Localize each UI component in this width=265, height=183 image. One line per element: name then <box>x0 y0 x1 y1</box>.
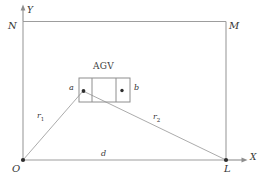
segment-r1 <box>23 91 83 160</box>
agv-point-a-marker <box>82 89 86 93</box>
vertex-label-m: M <box>229 21 239 31</box>
segment-r1-subscript: 1 <box>41 116 45 122</box>
y-axis-label: Y <box>27 6 33 15</box>
segment-r2-label: r2 <box>153 113 160 123</box>
agv-point-b-label: b <box>134 84 139 92</box>
segment-r2-subscript: 2 <box>157 117 161 123</box>
x-axis-label: X <box>250 153 256 162</box>
vertex-label-l: L <box>224 164 231 174</box>
vertex-label-o: O <box>12 164 20 174</box>
segment-d-label: d <box>101 150 106 158</box>
agv-point-b-marker <box>120 89 123 92</box>
x-axis-arrowhead <box>242 158 248 163</box>
vertex-label-n: N <box>8 21 17 31</box>
segment-r1-label: r1 <box>37 112 44 122</box>
point-l-marker <box>224 158 228 162</box>
diagram-canvas <box>0 0 265 183</box>
origin-point-marker <box>21 158 25 162</box>
y-axis-arrowhead <box>21 5 26 11</box>
agv-point-a-label: a <box>69 84 74 92</box>
agv-title-label: AGV <box>93 62 114 71</box>
agv-geometry-diagram: N M O L Y X AGV a b r1 r2 d <box>0 0 265 183</box>
